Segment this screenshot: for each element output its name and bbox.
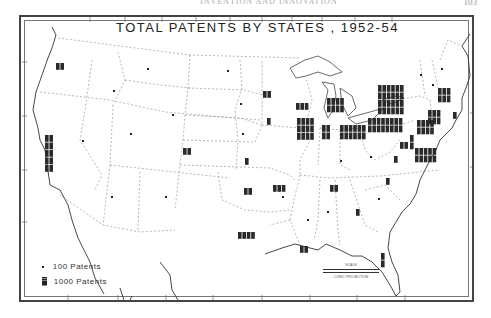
state-symbol-kansas (245, 158, 249, 165)
scale-box: SCALE CONIC PROJECTION (323, 263, 379, 279)
projection-label: CONIC PROJECTION (323, 275, 379, 279)
state-symbol-alabama (327, 211, 329, 213)
state-symbol-michigan (327, 98, 344, 112)
state-symbol-tennessee (330, 185, 338, 192)
state-symbol-colorado (183, 148, 191, 155)
state-symbol-north-dakota (227, 70, 229, 72)
state-symbol-south-dakota (240, 103, 242, 105)
state-symbol-nevada (82, 140, 84, 142)
coastline (33, 27, 470, 300)
state-symbol-texas (238, 232, 255, 239)
state-symbol-west-virginia (370, 156, 372, 158)
legend-item-1000: 1000 Patents (42, 277, 107, 286)
state-symbol-georgia (356, 209, 360, 216)
state-symbol-ohio (340, 125, 366, 139)
state-symbol-vermont (420, 74, 422, 76)
state-symbol-nebraska (242, 133, 244, 135)
state-symbol-missouri (273, 185, 285, 192)
state-symbol-new-hampshire (432, 84, 434, 86)
state-symbol-north-carolina (386, 178, 390, 185)
block-symbol-icon (42, 277, 47, 286)
state-symbol-connecticut (428, 110, 440, 124)
small-square-icon (42, 266, 44, 268)
state-symbol-iowa (267, 118, 271, 125)
state-symbol-utah (130, 133, 132, 135)
state-symbol-arizona (111, 196, 113, 198)
legend-label-100: 100 Patents (53, 262, 101, 271)
state-symbol-wisconsin (296, 103, 308, 110)
state-symbol-arkansas (282, 196, 284, 198)
state-symbol-maryland (400, 142, 408, 149)
state-symbol-minnesota (263, 91, 271, 98)
state-symbol-florida (381, 253, 385, 267)
map-title: TOTAL PATENTS BY STATES , 1952-54 (116, 20, 399, 35)
state-symbol-wyoming (172, 114, 174, 116)
legend-item-100: 100 Patents (42, 262, 101, 271)
state-symbol-maine (441, 68, 443, 70)
state-symbol-kentucky (340, 160, 342, 162)
state-symbol-california (45, 135, 53, 172)
scale-bar (323, 269, 379, 273)
state-symbol-illinois (297, 118, 314, 140)
state-boundaries (40, 38, 462, 245)
state-symbol-indiana (322, 125, 330, 139)
state-symbol-south-carolina (378, 198, 380, 200)
state-symbol-delaware (410, 135, 414, 149)
legend-label-1000: 1000 Patents (54, 277, 107, 286)
state-symbol-montana (147, 68, 149, 70)
patent-symbols (45, 63, 457, 267)
state-symbol-new-mexico (165, 196, 167, 198)
state-symbol-louisiana (300, 246, 308, 253)
state-symbol-idaho (113, 90, 115, 92)
state-symbol-washington (56, 63, 64, 70)
state-symbol-oklahoma (244, 188, 252, 195)
state-symbol-mississippi (307, 219, 309, 221)
state-symbol-virginia (394, 156, 398, 163)
state-symbol-rhode-island (453, 112, 457, 119)
scale-label: SCALE (323, 263, 379, 267)
